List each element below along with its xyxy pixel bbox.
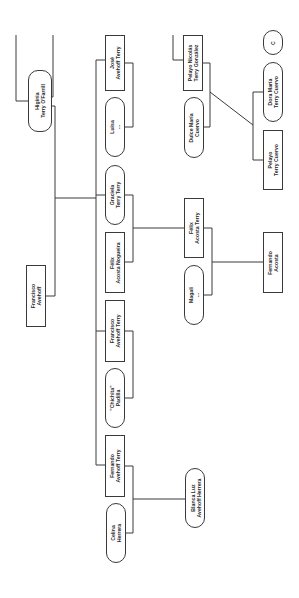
person-name: FranciscoAvehoff [30,284,42,309]
name-line-2: Terry Terry [115,182,121,209]
name-line-2: Avehoff Herrera [195,478,201,517]
name-line-2: Terry González [193,45,199,82]
name-line-1: Graciela [109,182,115,209]
name-line-2: Avehoff Terry [115,314,121,347]
connector-line [204,228,212,295]
connector-line [125,195,133,262]
person-node-magali: Magali... [184,265,204,325]
person-node-graciela: GracielaTerry Terry [105,165,125,225]
name-line-1: C [270,41,276,45]
name-line-2: Padilla [115,385,121,410]
person-node-fernando_acosta: FernandoAcosta [263,232,283,293]
person-name: C [270,41,276,45]
name-line-2: ... [115,120,121,134]
connector-line [16,35,28,101]
person-node-francisco_terry: FranciscoAvehoff Terry [105,300,125,362]
person-name: JoséAvehoff Terry [109,46,121,79]
person-name: Blanca LuzAvehoff Herrera [189,478,201,517]
name-line-1: Celina [110,524,116,542]
person-node-pelayo_nicolas: Pelayo NicolásTerry González [183,35,203,91]
connector-line [125,331,133,398]
person-name: PelayoTerry Cuervo [267,144,279,176]
person-node-luisa: Luisa... [105,97,125,157]
person-name: "Chichita"Padilla [109,385,121,410]
connector-line [52,35,53,97]
person-node-felix_terry: FélixAcosta Terry [184,198,204,258]
connector-line [46,106,55,296]
name-line-2: Acosta Nogueira [115,242,121,283]
name-line-2: Avehoff [36,284,42,309]
connector-line [173,35,183,60]
person-name: GracielaTerry Terry [109,182,121,209]
person-node-higinia: HiginiaTerry O'Farrill [28,70,52,132]
name-line-2: Terry Cuervo [273,76,279,108]
name-line-2: Acosta [273,251,279,275]
name-line-2: Herrera [116,524,122,542]
person-node-partial: C [263,30,283,55]
person-name: Pelayo NicolásTerry González [187,45,199,82]
connector-line [125,466,133,533]
person-node-blanca: Blanca LuzAvehoff Herrera [185,468,205,528]
name-line-2: Cuervo [194,113,200,142]
person-node-felix_nogueira: FélixAcosta Nogueira [105,232,125,293]
person-name: Magali... [188,287,200,303]
name-line-1: Pelayo Nicolás [187,45,193,82]
person-name: FernandoAvehoff Terry [109,449,121,482]
person-name: FélixAcosta Terry [188,212,200,243]
person-node-celina: CelinaHerrera [106,503,126,563]
person-node-dulce: Dulce MaríaCuervo [184,97,204,158]
person-node-fernando_terry: FernandoAvehoff Terry [105,435,125,497]
name-line-1: Blanca Luz [189,478,195,517]
name-line-2: Terry Cuervo [273,144,279,176]
person-node-francisco_avehoff: FranciscoAvehoff [26,265,46,327]
connector-line [96,60,105,465]
connector-line [210,92,253,125]
person-name: HiginiaTerry O'Farrill [34,84,46,118]
person-name: Dulce MaríaCuervo [188,113,200,142]
person-name: Luisa... [109,120,121,134]
name-line-2: ... [194,287,200,303]
connector-line [125,63,133,127]
name-line-2: Avehoff Terry [115,46,121,79]
name-line-2: Avehoff Terry [115,449,121,482]
family-tree-diagram: HiginiaTerry O'FarrillFranciscoAvehoffJo… [0,0,299,598]
person-name: FélixAcosta Nogueira [109,242,121,283]
person-name: CelinaHerrera [110,524,122,542]
name-line-1: Francisco [30,284,36,309]
person-name: FranciscoAvehoff Terry [109,314,121,347]
person-node-chichita: "Chichita"Padilla [105,368,125,428]
person-node-pelayo_cuervo: PelayoTerry Cuervo [263,130,283,190]
name-line-2: Acosta Terry [194,212,200,243]
connector-line [203,63,210,127]
person-name: FernandoAcosta [267,251,279,275]
name-line-2: Terry O'Farrill [40,84,46,118]
person-node-dora: Dora MaríaTerry Cuervo [263,62,283,122]
person-node-jose: JoséAvehoff Terry [105,35,125,91]
connector-line [253,92,263,160]
person-name: Dora MaríaTerry Cuervo [267,76,279,108]
